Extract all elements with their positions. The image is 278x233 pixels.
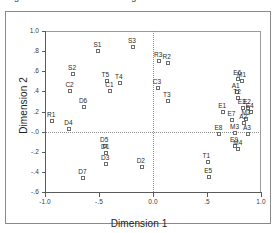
scatter-point (246, 132, 250, 136)
scatter-point-label: D3 (101, 154, 109, 161)
scatter-point-label: T4 (115, 73, 123, 80)
scatter-point-label: C2 (65, 81, 73, 88)
scatter-point-label: S2 (68, 64, 76, 71)
y-tick-mark (42, 112, 46, 113)
scatter-point-label: D7 (78, 168, 86, 175)
scatter-point (221, 110, 225, 114)
scatter-point-label: R3 (154, 51, 162, 58)
scatter-point (217, 132, 221, 136)
y-tick-mark (42, 31, 46, 32)
scatter-point (50, 119, 54, 123)
x-tick-mark (207, 193, 208, 197)
scatter-point-label: T2 (233, 88, 241, 95)
scatter-point (68, 89, 72, 93)
scatter-point (67, 127, 71, 131)
scatter-point (81, 176, 85, 180)
figure-root: Figure Derived Stimulus Configuration Eu… (0, 0, 278, 233)
scatter-point (233, 131, 237, 135)
y-tick-label: 1.0 (17, 27, 39, 34)
scatter-point-label: A2 (239, 113, 247, 120)
y-tick-mark (42, 91, 46, 92)
scatter-point (104, 162, 108, 166)
scatter-point-label: E7 (227, 110, 235, 117)
scatter-point (71, 72, 75, 76)
scatter-point (157, 59, 161, 63)
y-tick-mark (42, 71, 46, 72)
caption-text: Figure Derived Stimulus Configuration Eu… (6, 0, 276, 2)
scatter-point-label: S1 (93, 41, 101, 48)
x-axis-title: Dimension 1 (6, 218, 272, 229)
scatter-point-label: T1 (203, 152, 211, 159)
scatter-point-label: M1 (237, 71, 246, 78)
scatter-point (96, 49, 100, 53)
y-tick-mark (42, 152, 46, 153)
scatter-point (240, 79, 244, 83)
x-tick-label: .5 (195, 198, 219, 205)
scatter-point-label: S3 (128, 37, 136, 44)
y-tick-mark (42, 172, 46, 173)
x-tick-label: -1.0 (33, 198, 57, 205)
scatter-point-label: R2 (163, 53, 171, 60)
scatter-point-label: D2 (137, 157, 145, 164)
x-tick-label: 1.0 (249, 198, 273, 205)
y-axis-title: Dimension 2 (18, 36, 29, 176)
figure-frame: 1.0.8.6.4.2-.0-.2-.4-.6 -1.0-.50.0.51.0 … (5, 11, 271, 224)
scatter-point-label: E5 (204, 167, 212, 174)
scatter-point (166, 61, 170, 65)
x-tick-label: -.5 (87, 198, 111, 205)
scatter-point-label: D6 (79, 97, 87, 104)
x-tick-mark (153, 193, 154, 197)
scatter-point (131, 45, 135, 49)
clipped-caption: Figure Derived Stimulus Configuration Eu… (0, 0, 278, 9)
scatter-point-label: E8 (214, 124, 222, 131)
scatter-point-label: T3 (163, 91, 171, 98)
x-tick-label: 0.0 (141, 198, 165, 205)
scatter-point (206, 160, 210, 164)
x-tick-mark (45, 193, 46, 197)
scatter-point (118, 81, 122, 85)
x-tick-mark (99, 193, 100, 197)
scatter-point-label: M4 (233, 139, 242, 146)
x-tick-mark (261, 193, 262, 197)
scatter-point (82, 105, 86, 109)
y-tick-label: -.6 (17, 188, 39, 195)
scatter-point-label: C3 (153, 78, 161, 85)
scatter-point-label: D1 (101, 143, 109, 150)
reference-line-horizontal (45, 132, 261, 133)
scatter-point-label: D4 (64, 119, 72, 126)
scatter-point (108, 89, 112, 93)
y-tick-mark (42, 132, 46, 133)
scatter-point-label: M3 (230, 123, 239, 130)
y-tick-mark (42, 51, 46, 52)
scatter-point (230, 118, 234, 122)
scatter-point (140, 165, 144, 169)
scatter-point (166, 99, 170, 103)
scatter-point (207, 175, 211, 179)
scatter-point-label: E1 (218, 102, 226, 109)
scatter-point (156, 86, 160, 90)
scatter-point (236, 147, 240, 151)
scatter-point-label: T5 (102, 71, 110, 78)
scatter-point-label: R1 (47, 111, 55, 118)
scatter-point-label: A3 (243, 124, 251, 131)
scatter-point-label: C1 (105, 81, 113, 88)
